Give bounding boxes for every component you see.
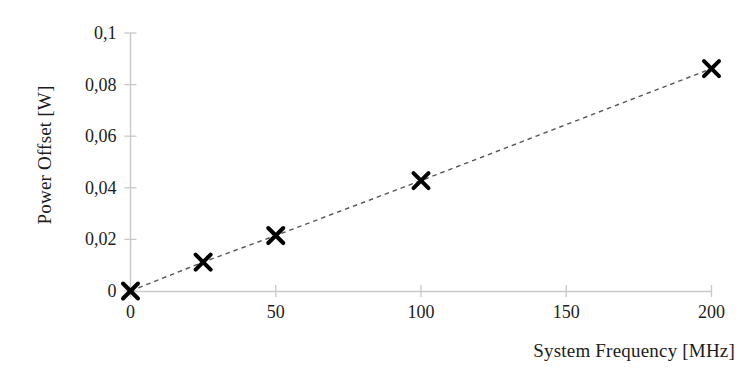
y-tick-label: 0,1 <box>94 23 117 44</box>
y-tick-label: 0 <box>108 281 117 302</box>
y-tick-label: 0,02 <box>85 229 117 250</box>
x-tick-label: 100 <box>408 302 435 323</box>
data-point-marker <box>704 61 719 76</box>
y-tick-label: 0,08 <box>85 74 117 95</box>
x-tick-label: 0 <box>126 302 135 323</box>
data-point-marker <box>268 228 283 243</box>
data-point-marker <box>196 255 211 270</box>
y-tick-label: 0,04 <box>85 177 117 198</box>
x-axis <box>131 285 713 297</box>
y-axis <box>125 33 137 291</box>
data-point-marker <box>414 173 429 188</box>
x-tick-label: 200 <box>698 302 725 323</box>
series-data-markers <box>123 61 719 298</box>
x-tick-label: 50 <box>267 302 285 323</box>
x-tick-label: 150 <box>553 302 580 323</box>
chart-figure: Power Offset [W] System Frequency [MHz] … <box>0 0 753 377</box>
y-tick-label: 0,06 <box>85 126 117 147</box>
